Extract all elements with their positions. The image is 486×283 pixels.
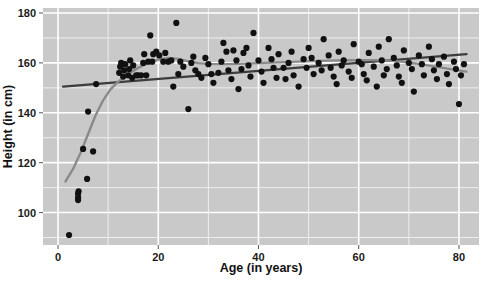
data-point <box>419 61 425 67</box>
data-point <box>396 74 402 80</box>
data-point <box>190 54 196 60</box>
y-axis-ticks: 100120140160180 <box>18 7 43 219</box>
data-point <box>230 47 236 53</box>
data-point <box>359 61 365 67</box>
data-point <box>84 176 90 182</box>
data-point <box>173 20 179 26</box>
data-point <box>334 81 340 87</box>
data-point <box>458 72 464 78</box>
data-point <box>282 76 288 82</box>
data-point <box>170 83 176 89</box>
data-point <box>349 75 355 81</box>
data-point <box>275 51 281 57</box>
chart-container: 020406080 100120140160180 Age (in years)… <box>0 0 486 283</box>
data-point <box>162 50 168 56</box>
y-tick-label: 100 <box>18 207 36 219</box>
data-point <box>90 148 96 154</box>
data-point <box>188 60 194 66</box>
y-tick-label: 120 <box>18 157 36 169</box>
data-point <box>336 49 342 55</box>
data-point <box>85 108 91 114</box>
data-point <box>421 72 427 78</box>
data-point <box>451 59 457 65</box>
data-point <box>122 61 128 67</box>
data-point <box>326 52 332 58</box>
data-point <box>461 61 467 67</box>
data-point <box>384 66 390 72</box>
data-point <box>306 45 312 51</box>
data-point <box>426 44 432 50</box>
data-point <box>156 52 162 58</box>
data-point <box>316 60 322 66</box>
data-point <box>198 75 204 81</box>
data-point <box>444 71 450 77</box>
data-point <box>434 76 440 82</box>
data-point <box>295 83 301 89</box>
data-point <box>245 62 251 68</box>
data-point <box>208 71 214 77</box>
data-point <box>374 83 380 89</box>
data-point <box>175 71 181 77</box>
data-point <box>228 76 234 82</box>
data-point <box>321 36 327 42</box>
data-point <box>379 57 385 63</box>
y-tick-label: 140 <box>18 107 36 119</box>
data-point <box>301 56 307 62</box>
data-point <box>168 57 174 63</box>
data-point <box>180 64 186 70</box>
data-point <box>215 70 221 76</box>
data-point <box>366 50 372 56</box>
data-point <box>265 45 271 51</box>
data-point <box>304 65 310 71</box>
x-tick-label: 0 <box>55 251 61 263</box>
data-point <box>223 49 229 55</box>
data-point <box>258 69 264 75</box>
data-point <box>288 49 294 55</box>
data-point <box>285 60 291 66</box>
data-point <box>75 197 81 203</box>
data-point <box>75 188 81 194</box>
data-point <box>416 52 422 58</box>
data-point <box>255 57 261 63</box>
data-point <box>260 80 266 86</box>
y-tick-label: 180 <box>18 7 36 19</box>
data-point <box>233 57 239 63</box>
data-point <box>453 66 459 72</box>
data-point <box>202 55 208 61</box>
data-point <box>331 74 337 80</box>
data-point <box>456 101 462 107</box>
data-point <box>141 51 147 57</box>
data-point <box>361 71 367 77</box>
data-point <box>346 69 352 75</box>
data-point <box>235 86 241 92</box>
x-tick-label: 80 <box>453 251 465 263</box>
x-tick-label: 20 <box>152 251 164 263</box>
data-point <box>351 41 357 47</box>
data-point <box>436 61 442 67</box>
data-point <box>441 54 447 60</box>
y-tick-label: 160 <box>18 57 36 69</box>
data-point <box>149 59 155 65</box>
data-point <box>364 77 370 83</box>
data-point <box>247 74 253 80</box>
data-point <box>446 81 452 87</box>
data-point <box>328 65 334 71</box>
data-point <box>185 106 191 112</box>
data-point <box>401 47 407 53</box>
data-point <box>243 45 249 51</box>
scatter-plot: 020406080 100120140160180 Age (in years)… <box>0 0 486 283</box>
data-point <box>225 67 231 73</box>
data-point <box>429 56 435 62</box>
x-tick-label: 60 <box>353 251 365 263</box>
data-point <box>406 60 412 66</box>
data-point <box>386 36 392 42</box>
data-point <box>411 88 417 94</box>
data-point <box>273 75 279 81</box>
data-point <box>399 80 405 86</box>
data-point <box>311 71 317 77</box>
data-point <box>80 146 86 152</box>
data-point <box>66 232 72 238</box>
x-axis-title: Age (in years) <box>220 261 303 275</box>
data-point <box>376 44 382 50</box>
data-point <box>319 67 325 73</box>
